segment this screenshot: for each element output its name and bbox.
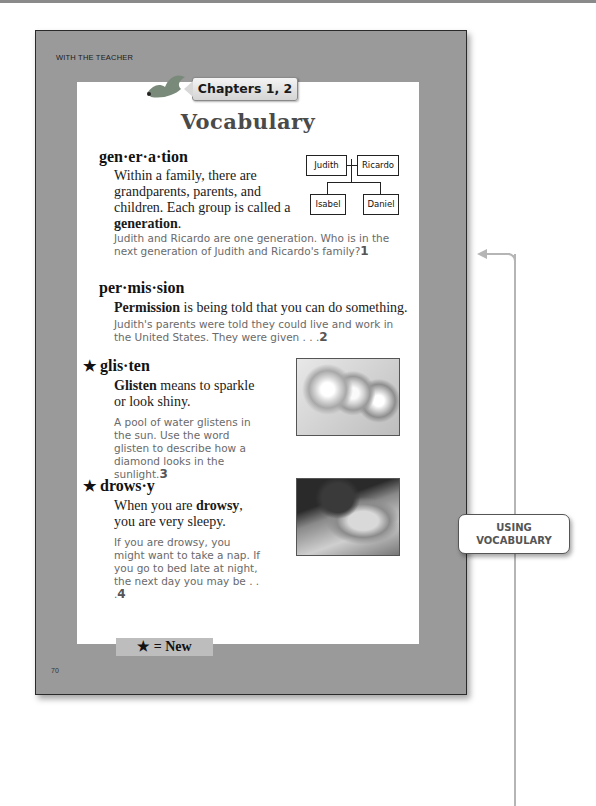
question-number: 1 bbox=[360, 244, 368, 258]
question-number: 4 bbox=[117, 587, 125, 601]
top-rule bbox=[0, 0, 596, 3]
new-star-icon: ★ bbox=[83, 478, 96, 494]
example-glisten: A pool of water glistens in the sun. Use… bbox=[114, 416, 264, 481]
example-drowsy: If you are drowsy, you might want to tak… bbox=[114, 536, 264, 601]
tree-drop-right bbox=[380, 182, 381, 194]
arrow-left-icon bbox=[477, 249, 487, 259]
section-label: WITH THE TEACHER bbox=[56, 53, 133, 62]
page-number: 70 bbox=[51, 667, 59, 674]
page-frame: WITH THE TEACHER Vocabulary gen·er·a·tio… bbox=[35, 30, 467, 695]
tree-node-isabel: Isabel bbox=[310, 194, 346, 215]
definition-permission: Permission is being told that you can do… bbox=[114, 300, 414, 316]
tree-node-judith: Judith bbox=[306, 155, 347, 176]
tree-branch-line bbox=[327, 182, 381, 183]
tree-node-daniel: Daniel bbox=[363, 194, 399, 215]
callout-line-1: USING bbox=[459, 521, 569, 534]
diamonds-photo bbox=[296, 358, 400, 436]
callout-line-2: VOCABULARY bbox=[459, 534, 569, 547]
tree-stem-line bbox=[351, 159, 352, 182]
chapter-tab: Chapters 1, 2 bbox=[192, 77, 298, 101]
headword-generation: gen·er·a·tion bbox=[99, 148, 188, 166]
tree-node-ricardo: Ricardo bbox=[357, 155, 399, 176]
new-legend: ★ = New bbox=[116, 638, 213, 656]
page-title: Vocabulary bbox=[77, 109, 419, 134]
headword-glisten: ★glis·ten bbox=[83, 357, 150, 375]
sleeping-child-photo bbox=[296, 478, 400, 556]
definition-glisten: Glisten means to sparkle or look shiny. bbox=[114, 378, 259, 410]
using-vocabulary-callout: USING VOCABULARY bbox=[458, 514, 570, 554]
vocabulary-panel: Vocabulary gen·er·a·tion Within a family… bbox=[77, 82, 419, 644]
headword-permission: per·mis·sion bbox=[99, 279, 184, 297]
definition-generation: Within a family, there are grandparents,… bbox=[114, 168, 309, 232]
new-star-icon: ★ bbox=[83, 358, 96, 374]
tree-drop-left bbox=[327, 182, 328, 194]
question-number: 3 bbox=[159, 467, 167, 481]
question-number: 2 bbox=[319, 330, 327, 344]
definition-drowsy: When you are drowsy, you are very sleepy… bbox=[114, 498, 264, 530]
example-generation: Judith and Ricardo are one generation. W… bbox=[114, 232, 404, 258]
headword-drowsy: ★drows·y bbox=[83, 477, 155, 495]
connector-horizontal-line bbox=[486, 253, 510, 255]
example-permission: Judith's parents were told they could li… bbox=[114, 318, 404, 344]
